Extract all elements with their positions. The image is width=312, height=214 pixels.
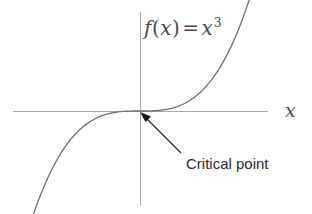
annotation-arrow-shaft (146, 118, 181, 153)
plot-area (0, 0, 312, 214)
annotation-arrow (140, 112, 181, 153)
figure-canvas: f(x)=x3 x Critical point (0, 0, 312, 214)
cubic-curve-path (32, 0, 252, 214)
annotation-arrow-head (140, 112, 151, 122)
